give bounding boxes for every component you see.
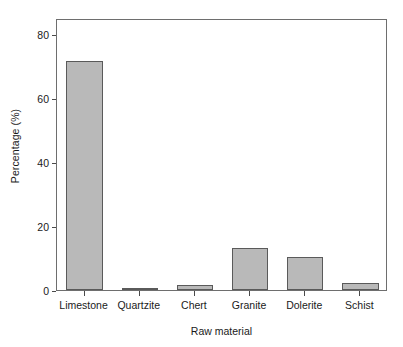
x-tick-label-chert: Chert bbox=[181, 299, 207, 311]
bar-schist bbox=[342, 283, 378, 290]
y-tick-label: 0 bbox=[43, 284, 49, 298]
x-tick-label-quartzite: Quartzite bbox=[117, 299, 160, 311]
x-tick-mark bbox=[194, 291, 195, 296]
x-tick-label-schist: Schist bbox=[345, 299, 374, 311]
y-tick-label: 20 bbox=[37, 220, 49, 234]
bar-quartzite bbox=[122, 288, 158, 290]
x-axis-ticks: LimestoneQuartziteChertGraniteDoleriteSc… bbox=[56, 291, 387, 347]
x-tick-mark bbox=[139, 291, 140, 296]
x-tick-mark bbox=[359, 291, 360, 296]
x-tick-mark bbox=[249, 291, 250, 296]
bar-chert bbox=[177, 285, 213, 290]
bar-chart-figure: Percentage (%) 020406080 LimestoneQuartz… bbox=[0, 0, 403, 347]
x-tick-mark bbox=[304, 291, 305, 296]
x-tick-label-dolerite: Dolerite bbox=[286, 299, 322, 311]
plot-area bbox=[56, 19, 387, 291]
x-axis-label: Raw material bbox=[56, 325, 387, 337]
y-axis-ticks: 020406080 bbox=[0, 0, 56, 347]
bar-granite bbox=[232, 248, 268, 290]
y-tick-label: 60 bbox=[37, 92, 49, 106]
bars-layer bbox=[57, 20, 386, 290]
bar-limestone bbox=[66, 61, 102, 290]
x-tick-label-limestone: Limestone bbox=[59, 299, 107, 311]
bar-dolerite bbox=[287, 257, 323, 290]
y-tick-label: 40 bbox=[37, 156, 49, 170]
y-tick-label: 80 bbox=[37, 28, 49, 42]
x-tick-label-granite: Granite bbox=[232, 299, 266, 311]
x-tick-mark bbox=[84, 291, 85, 296]
